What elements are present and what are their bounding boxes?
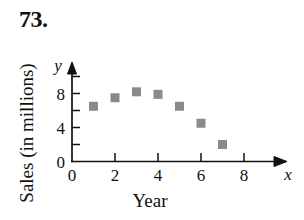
x-axis-variable-letter: x: [283, 165, 292, 184]
data-point: [89, 102, 98, 111]
x-tick-label-4: 4: [154, 166, 163, 185]
y-axis-arrowhead: [68, 62, 77, 74]
x-tick-label-0: 0: [68, 166, 77, 185]
data-point: [154, 90, 163, 99]
y-tick-label-8: 8: [57, 85, 66, 104]
data-point: [111, 93, 120, 102]
y-tick-label-0: 0: [57, 153, 66, 172]
x-tick-label-8: 8: [240, 166, 249, 185]
y-tick-label-4: 4: [57, 119, 66, 138]
data-point: [175, 102, 184, 111]
data-point: [132, 87, 141, 96]
x-tick-label-6: 6: [197, 166, 206, 185]
data-point: [197, 119, 206, 128]
data-point: [218, 140, 227, 149]
x-tick-label-2: 2: [111, 166, 120, 185]
scatter-plot-figure: 73. Sales (in millions) Year 8 4 0 0 2 4…: [0, 0, 304, 220]
data-point-group: [89, 87, 227, 149]
plot-area: 8 4 0 0 2 4 6 8 y x: [0, 0, 304, 220]
y-axis-variable-letter: y: [52, 56, 62, 75]
